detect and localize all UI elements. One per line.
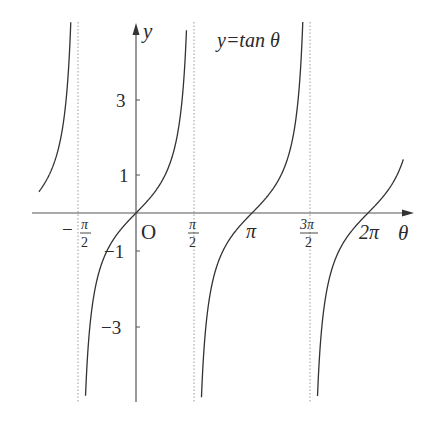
- y-tick-neg1: −1: [104, 241, 124, 262]
- tan-branch-1: [39, 22, 71, 192]
- origin-label: O: [141, 220, 156, 244]
- y-tick-1: 1: [119, 165, 129, 186]
- svg-text:2: 2: [189, 235, 196, 250]
- y-axis-label: y: [141, 19, 153, 43]
- asymptotes: [78, 22, 310, 402]
- x-tick-neg-half-pi: − π 2: [62, 217, 91, 250]
- tan-branch-4: [318, 159, 404, 396]
- tan-curves: [39, 22, 403, 397]
- y-axis-arrow-icon: [133, 23, 140, 35]
- svg-text:2: 2: [305, 235, 312, 250]
- x-axis-label: θ: [398, 221, 408, 245]
- y-tick-3: 3: [116, 90, 126, 111]
- x-axis-arrow-icon: [402, 210, 414, 217]
- svg-text:3π: 3π: [299, 217, 315, 232]
- y-tick-neg3: −3: [101, 317, 121, 338]
- x-tick-pi: π: [246, 220, 257, 242]
- chart-title: y=tan θ: [215, 29, 280, 52]
- tan-branch-3: [201, 22, 302, 397]
- svg-text:π: π: [81, 217, 89, 232]
- tan-graph: y y=tan θ 3 1 −1 −3 O − π 2 π 2 π 3π 2 2…: [0, 0, 428, 425]
- svg-text:−: −: [62, 219, 73, 240]
- svg-text:2: 2: [81, 235, 88, 250]
- x-tick-two-pi: 2π: [359, 221, 380, 243]
- x-tick-three-half-pi: 3π 2: [299, 217, 318, 250]
- svg-text:π: π: [189, 217, 197, 232]
